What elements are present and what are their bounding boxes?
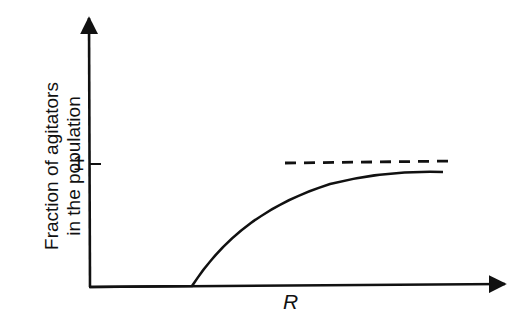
y-axis (89, 18, 90, 287)
y-axis-label-line1: Fraction of agitators (41, 16, 63, 316)
agitator-curve (90, 172, 443, 287)
asymptote-dashed-line (285, 161, 456, 163)
x-axis-label: R (283, 290, 298, 314)
y-tick-label: 1 (73, 152, 84, 175)
